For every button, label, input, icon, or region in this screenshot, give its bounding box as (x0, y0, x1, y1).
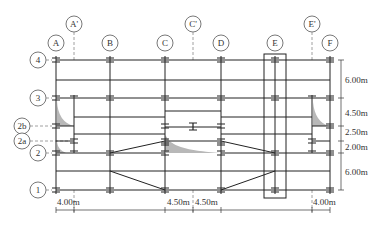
axis-label-C-prime: C' (189, 19, 197, 29)
axis-label-C: C (162, 38, 168, 48)
dim-3-2b: 4.50m (345, 108, 368, 118)
dim-2b-2a: 2.50m (345, 127, 368, 137)
axis-label-2: 2 (36, 148, 41, 158)
axis-label-A-prime: A' (70, 19, 78, 29)
axis-label-A: A (53, 38, 60, 48)
dim-4-3: 6.00m (345, 75, 368, 85)
right-dimension-chain (338, 60, 344, 190)
axis-label-4: 4 (36, 55, 41, 65)
bottom-dimension-labels: 4.00m 4.50m 4.50m 4.00m (57, 197, 336, 207)
axis-label-E-prime: E' (308, 19, 315, 29)
dim-Eprime-F: 4.00m (313, 197, 336, 207)
dim-2-1: 6.00m (345, 167, 368, 177)
beam-lines (56, 60, 334, 190)
structural-grid-diagram: A A' B C C' D E E' F 4 3 2b 2a 2 1 (0, 0, 378, 227)
dim-Cprime-D: 4.50m (195, 197, 218, 207)
axis-label-2a: 2a (18, 136, 27, 146)
dim-A-Aprime: 4.00m (57, 197, 80, 207)
support-markers (52, 58, 334, 192)
axis-label-F: F (327, 38, 332, 48)
axis-label-D: D (218, 38, 225, 48)
axis-label-1: 1 (36, 185, 41, 195)
axis-label-2b: 2b (18, 121, 28, 131)
right-dimension-labels: 6.00m 4.50m 2.50m 2.00m 6.00m (345, 75, 368, 177)
axis-label-B: B (107, 38, 113, 48)
dim-C-Cprime: 4.50m (167, 197, 190, 207)
axis-label-3: 3 (36, 93, 41, 103)
dim-2a-2: 2.00m (345, 142, 368, 152)
axis-label-E: E (272, 38, 278, 48)
bottom-dimension-chain (56, 207, 330, 213)
